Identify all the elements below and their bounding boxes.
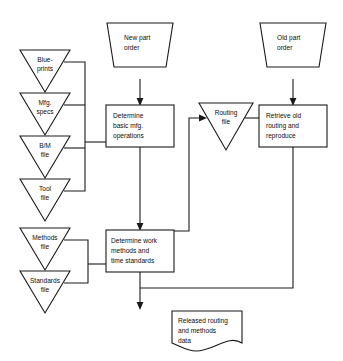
node-blueprints-line-0: Blue- [37, 56, 52, 63]
node-old-part-order-line-1: order [277, 44, 293, 51]
node-retrieve-old-routing-line-1: routing and [266, 122, 299, 130]
node-determine-work-methods-line-0: Determine work [111, 237, 158, 244]
node-determine-basic-ops-line-1: basic mfg. [113, 122, 143, 130]
node-determine-work-methods-line-2: time standards [111, 257, 155, 264]
node-methods-file-line-0: Methods [32, 234, 58, 241]
node-bm-file-line-0: B/M [39, 142, 51, 149]
node-determine-work-methods[interactable]: Determine work methods and time standard… [106, 230, 174, 272]
node-retrieve-old-routing-line-2: reproduce [266, 132, 296, 140]
node-determine-basic-ops-line-0: Determine [113, 112, 144, 119]
node-retrieve-old-routing-line-0: Retrieve old [266, 112, 302, 119]
trapezoid-input-shape [107, 23, 173, 67]
node-routing-file[interactable]: Routing file [199, 103, 253, 150]
node-determine-basic-ops-line-2: operations [113, 132, 144, 140]
node-routing-file-line-0: Routing [215, 109, 238, 117]
node-bm-file-line-1: file [41, 151, 50, 158]
node-retrieve-old-routing[interactable]: Retrieve old routing and reproduce [259, 105, 327, 147]
node-released-routing-data-line-1: and methods [178, 327, 217, 334]
node-tool-file-line-1: file [41, 194, 50, 201]
node-mfg-specs[interactable]: Mfg. specs [20, 93, 70, 135]
connector-old-part-order-to-retrieve-old-routing [290, 79, 297, 106]
node-blueprints[interactable]: Blue- prints [20, 50, 70, 92]
flowchart-canvas: Blue- prints Mfg. specs B/M file Tool fi… [0, 0, 343, 361]
node-determine-work-methods-line-1: methods and [111, 247, 149, 254]
connector-determine-work-methods-to-released-data [137, 272, 144, 310]
node-mfg-specs-line-1: specs [36, 108, 54, 116]
node-new-part-order-line-1: order [124, 44, 140, 51]
connector-new-part-order-to-determine-basic-ops [137, 79, 144, 106]
node-standards-file[interactable]: Standards file [20, 271, 70, 313]
connector-determine-work-methods-to-routing-file [174, 115, 207, 231]
node-determine-basic-ops[interactable]: Determine basic mfg. operations [106, 105, 174, 147]
node-released-routing-data-line-0: Released routing [178, 317, 228, 325]
node-tool-file[interactable]: Tool file [20, 179, 70, 221]
node-methods-file[interactable]: Methods file [20, 228, 70, 270]
node-routing-file-line-1: file [222, 118, 231, 125]
node-mfg-specs-line-0: Mfg. [39, 99, 52, 107]
connector-blueprints-to-bus [64, 62, 85, 142]
node-bm-file[interactable]: B/M file [20, 136, 70, 178]
node-blueprints-line-1: prints [37, 65, 54, 73]
connector-determine-basic-ops-to-determine-work-methods [137, 147, 144, 231]
node-released-routing-data[interactable]: Released routing and methods data [172, 311, 242, 351]
connector-methods-file-to-bus [64, 240, 88, 264]
node-standards-file-line-1: file [41, 286, 50, 293]
node-released-routing-data-line-2: data [178, 337, 191, 344]
node-methods-file-line-1: file [41, 243, 50, 250]
node-old-part-order[interactable]: Old part order [260, 23, 326, 67]
flowchart-svg: Blue- prints Mfg. specs B/M file Tool fi… [0, 0, 343, 361]
node-new-part-order-line-0: New part [124, 34, 151, 42]
node-standards-file-line-0: Standards [30, 277, 61, 284]
node-old-part-order-line-0: Old part [277, 34, 301, 42]
trapezoid-input-shape [260, 23, 326, 67]
node-tool-file-line-0: Tool [39, 185, 52, 192]
node-new-part-order[interactable]: New part order [107, 23, 173, 67]
connector-layer [64, 62, 296, 310]
